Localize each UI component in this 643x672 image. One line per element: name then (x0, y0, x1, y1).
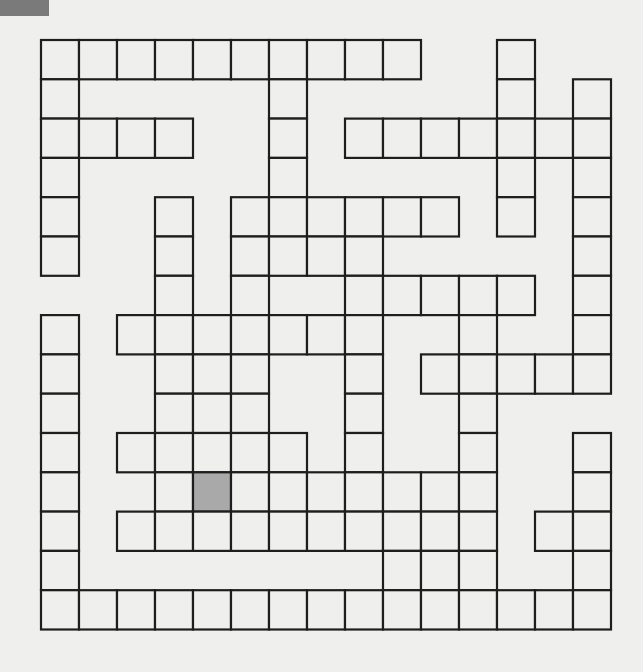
grid-cell[interactable] (497, 197, 535, 236)
grid-cell[interactable] (155, 590, 193, 629)
grid-cell[interactable] (41, 79, 79, 118)
grid-cell[interactable] (573, 79, 611, 118)
grid-cell[interactable] (231, 276, 269, 315)
grid-cell[interactable] (231, 315, 269, 354)
grid-cell[interactable] (573, 197, 611, 236)
grid-cell[interactable] (459, 512, 497, 551)
grid-cell[interactable] (41, 512, 79, 551)
grid-cell[interactable] (535, 119, 573, 158)
grid-cell[interactable] (269, 237, 307, 276)
grid-cell[interactable] (383, 119, 421, 158)
grid-cell[interactable] (193, 315, 231, 354)
grid-cell[interactable] (345, 512, 383, 551)
grid-cell[interactable] (383, 472, 421, 511)
grid-cell[interactable] (155, 433, 193, 472)
grid-cell[interactable] (421, 551, 459, 590)
grid-cell[interactable] (573, 433, 611, 472)
grid-cell[interactable] (231, 433, 269, 472)
grid-cell[interactable] (573, 354, 611, 393)
grid-cell[interactable] (307, 40, 345, 79)
grid-cell[interactable] (193, 512, 231, 551)
grid-cell[interactable] (573, 237, 611, 276)
grid-cell[interactable] (269, 197, 307, 236)
grid-cell[interactable] (459, 590, 497, 629)
grid-cell[interactable] (573, 315, 611, 354)
grid-cell[interactable] (345, 119, 383, 158)
grid-cell[interactable] (41, 433, 79, 472)
grid-cell[interactable] (41, 551, 79, 590)
grid-cell[interactable] (117, 119, 155, 158)
grid-cell[interactable] (421, 590, 459, 629)
grid-cell[interactable] (345, 394, 383, 433)
grid-cell[interactable] (155, 119, 193, 158)
grid-cell[interactable] (155, 315, 193, 354)
grid-cell[interactable] (383, 551, 421, 590)
grid-cell[interactable] (535, 354, 573, 393)
grid-cell[interactable] (383, 197, 421, 236)
grid-cell[interactable] (269, 472, 307, 511)
grid-cell[interactable] (41, 354, 79, 393)
grid-cell[interactable] (231, 237, 269, 276)
grid-cell[interactable] (497, 40, 535, 79)
grid-cell[interactable] (535, 512, 573, 551)
grid-cell[interactable] (231, 472, 269, 511)
grid-cell[interactable] (383, 590, 421, 629)
grid-cell[interactable] (79, 590, 117, 629)
grid-cell[interactable] (421, 472, 459, 511)
grid-cell[interactable] (307, 512, 345, 551)
grid-cell[interactable] (41, 197, 79, 236)
grid-cell[interactable] (573, 276, 611, 315)
grid-cell[interactable] (307, 197, 345, 236)
grid-cell[interactable] (117, 433, 155, 472)
grid-cell[interactable] (79, 119, 117, 158)
grid-cell[interactable] (497, 119, 535, 158)
grid-cell[interactable] (193, 40, 231, 79)
grid-cell[interactable] (307, 237, 345, 276)
grid-cell[interactable] (307, 315, 345, 354)
grid-cell[interactable] (459, 315, 497, 354)
grid-cell[interactable] (573, 158, 611, 197)
grid-cell[interactable] (231, 197, 269, 236)
grid-cell[interactable] (421, 354, 459, 393)
grid-cell[interactable] (345, 197, 383, 236)
grid-cell[interactable] (231, 512, 269, 551)
grid-cell[interactable] (193, 433, 231, 472)
grid-cell[interactable] (421, 197, 459, 236)
grid-cell[interactable] (155, 472, 193, 511)
grid-cell[interactable] (269, 40, 307, 79)
grid-cell[interactable] (573, 551, 611, 590)
grid-cell[interactable] (459, 551, 497, 590)
grid-cell[interactable] (459, 394, 497, 433)
grid-cell[interactable] (535, 590, 573, 629)
grid-cell[interactable] (421, 119, 459, 158)
grid-cell[interactable] (231, 354, 269, 393)
grid-cell[interactable] (41, 237, 79, 276)
grid-cell[interactable] (573, 119, 611, 158)
grid-cell[interactable] (497, 590, 535, 629)
grid-cell[interactable] (383, 512, 421, 551)
grid-cell[interactable] (117, 590, 155, 629)
grid-cell[interactable] (383, 40, 421, 79)
grid-cell[interactable] (155, 354, 193, 393)
grid-cell[interactable] (459, 354, 497, 393)
grid-cell[interactable] (269, 433, 307, 472)
grid-cell[interactable] (573, 512, 611, 551)
grid-cell[interactable] (155, 276, 193, 315)
grid-cell[interactable] (421, 512, 459, 551)
grid-cell[interactable] (459, 276, 497, 315)
grid-cell[interactable] (459, 472, 497, 511)
grid-cell[interactable] (345, 590, 383, 629)
grid-cell[interactable] (421, 276, 459, 315)
grid-cell[interactable] (193, 394, 231, 433)
grid-cell[interactable] (155, 197, 193, 236)
grid-cell[interactable] (41, 315, 79, 354)
grid-cell[interactable] (155, 394, 193, 433)
grid-cell[interactable] (497, 276, 535, 315)
grid-cell[interactable] (41, 394, 79, 433)
grid-cell[interactable] (345, 276, 383, 315)
grid-cell[interactable] (345, 354, 383, 393)
grid-cell[interactable] (155, 237, 193, 276)
grid-cell[interactable] (307, 472, 345, 511)
grid-cell[interactable] (345, 472, 383, 511)
grid-cell[interactable] (231, 590, 269, 629)
